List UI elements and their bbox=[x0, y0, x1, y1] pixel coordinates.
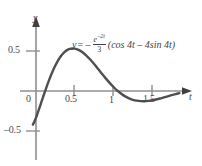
equation-annotation: y = – e–2t 3 (cos 4t – 4sin 4t) bbox=[72, 36, 175, 55]
x-tick-label-1: 1 bbox=[109, 94, 114, 105]
equation-tail: (cos 4t – 4sin 4t) bbox=[108, 40, 175, 50]
y-tick-label-neg-0.5: –0.5 bbox=[4, 124, 21, 135]
x-tick-label-1.5: 1.5 bbox=[143, 93, 155, 104]
equation-numerator: e–2t bbox=[93, 36, 106, 44]
function-curve bbox=[33, 48, 179, 124]
y-axis-label: y bbox=[33, 12, 37, 23]
equation-denominator: 3 bbox=[96, 46, 102, 54]
plot-svg bbox=[0, 0, 202, 166]
equation-lhs: y bbox=[72, 40, 76, 50]
x-axis-label: t bbox=[189, 91, 192, 102]
equation-numerator-exponent: –2t bbox=[97, 33, 105, 39]
x-tick-label-0: 0 bbox=[26, 93, 31, 104]
equation-fraction: e–2t 3 bbox=[93, 36, 106, 55]
y-tick-label-0.5: 0.5 bbox=[8, 44, 20, 55]
equation-equals: = – bbox=[77, 40, 90, 50]
x-tick-label-0.5: 0.5 bbox=[65, 93, 77, 104]
figure-container: y t 0.5 –0.5 0 0.5 1 1.5 y = – e–2t 3 (c… bbox=[0, 0, 202, 166]
y-axis bbox=[32, 16, 40, 160]
